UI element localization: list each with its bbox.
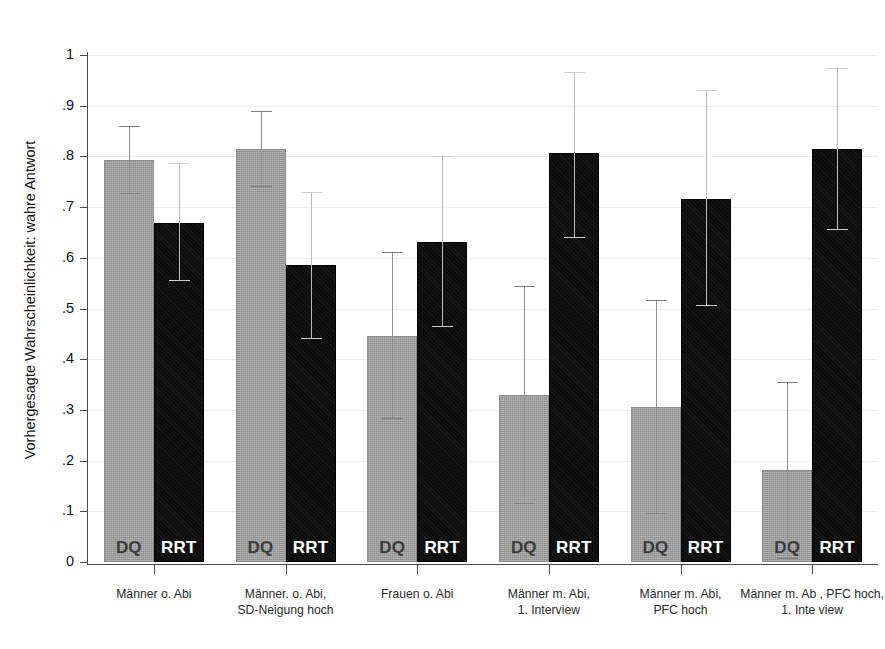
bar-series-label: RRT <box>550 539 598 556</box>
y-axis-title: Vorhergesagte Wahrscheinlichkeit: wahre … <box>22 65 38 535</box>
plot-area: DQRRTDQRRTDQRRTDQRRTDQRRTDQRRT <box>88 55 878 562</box>
error-bar-line <box>524 286 525 504</box>
error-bar-line <box>442 156 443 325</box>
error-bar-cap-lower <box>646 513 667 514</box>
error-bar-cap-upper <box>564 72 585 73</box>
x-axis-tick <box>417 565 418 574</box>
x-axis-category-label: Männer m. Ab , PFC hoch, 1. Inte view <box>717 586 885 618</box>
cropped-title-remnant <box>250 0 650 4</box>
bar-series-label: RRT <box>418 539 466 556</box>
gridline <box>88 55 878 56</box>
gridline <box>88 511 878 512</box>
error-bar-cap-lower <box>432 326 453 327</box>
y-axis-tick-label: 0 <box>44 554 74 569</box>
error-bar-cap-lower <box>301 338 322 339</box>
error-bar-line <box>706 90 707 305</box>
bar-dq-group-1: DQ <box>104 160 154 562</box>
error-bar-line <box>261 111 262 187</box>
error-bar-cap-upper <box>432 156 453 157</box>
x-axis-tick <box>154 565 155 574</box>
error-bar-line <box>656 300 657 513</box>
bar-chart: DQRRTDQRRTDQRRTDQRRTDQRRTDQRRT 0.1.2.3.4… <box>0 0 885 649</box>
error-bar-cap-lower <box>696 305 717 306</box>
bar-dq-group-2: DQ <box>236 149 286 562</box>
error-bar-cap-upper <box>646 300 667 301</box>
error-bar-cap-lower <box>514 503 535 504</box>
error-bar-cap-lower <box>382 418 403 419</box>
y-axis-tick-label: .5 <box>44 301 74 316</box>
x-axis-tick <box>681 565 682 574</box>
error-bar-line <box>392 252 393 418</box>
y-axis-tick-label: .2 <box>44 453 74 468</box>
error-bar-cap-upper <box>119 126 140 127</box>
gridline <box>88 309 878 310</box>
bar-series-label: RRT <box>813 539 861 556</box>
gridline <box>88 156 878 157</box>
error-bar-cap-lower <box>777 558 798 559</box>
error-bar-line <box>129 126 130 193</box>
error-bar-cap-lower <box>827 229 848 230</box>
error-bar-cap-upper <box>251 111 272 112</box>
bar-series-label: RRT <box>287 539 335 556</box>
bar-series-label: DQ <box>105 539 153 556</box>
gridline <box>88 410 878 411</box>
gridline <box>88 461 878 462</box>
error-bar-line <box>574 72 575 237</box>
bar-series-label: DQ <box>632 539 680 556</box>
error-bar-cap-upper <box>514 286 535 287</box>
error-bar-cap-lower <box>251 186 272 187</box>
error-bar-cap-upper <box>169 163 190 164</box>
gridline <box>88 258 878 259</box>
y-axis-tick-label: .8 <box>44 148 74 163</box>
bar-series-label: DQ <box>368 539 416 556</box>
error-bar-line <box>179 163 180 280</box>
error-bar-cap-upper <box>777 382 798 383</box>
x-axis-tick <box>286 565 287 574</box>
bar-series-label: RRT <box>155 539 203 556</box>
y-axis-line <box>87 52 88 565</box>
error-bar-cap-lower <box>169 280 190 281</box>
error-bar-cap-lower <box>119 193 140 194</box>
y-axis-tick-label: .6 <box>44 250 74 265</box>
bar-series-label: DQ <box>500 539 548 556</box>
x-axis-tick <box>549 565 550 574</box>
error-bar-line <box>837 68 838 229</box>
error-bar-cap-upper <box>696 90 717 91</box>
error-bar-cap-lower <box>564 237 585 238</box>
gridline <box>88 106 878 107</box>
x-axis-tick <box>812 565 813 574</box>
y-axis-tick-label: .3 <box>44 402 74 417</box>
x-axis-line <box>87 564 878 565</box>
gridline <box>88 359 878 360</box>
error-bar-cap-upper <box>382 252 403 253</box>
y-axis-tick-label: 1 <box>44 47 74 62</box>
error-bar-cap-upper <box>827 68 848 69</box>
y-axis-tick-label: .4 <box>44 351 74 366</box>
error-bar-line <box>787 382 788 558</box>
error-bar-line <box>311 192 312 338</box>
gridline <box>88 207 878 208</box>
error-bar-cap-upper <box>301 192 322 193</box>
y-axis-tick-label: .9 <box>44 98 74 113</box>
y-axis-tick-label: .7 <box>44 199 74 214</box>
y-axis-tick-label: .1 <box>44 503 74 518</box>
bar-series-label: RRT <box>682 539 730 556</box>
bar-series-label: DQ <box>237 539 285 556</box>
